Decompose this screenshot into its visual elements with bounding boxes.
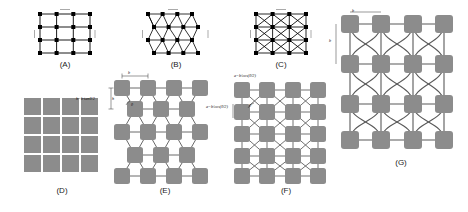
panel-D bbox=[22, 96, 102, 176]
panel-G-edges bbox=[350, 24, 444, 140]
panel-A-nodes bbox=[38, 12, 92, 55]
panel-G-left-span-label: b bbox=[329, 38, 331, 43]
panel-D-graphic bbox=[22, 96, 102, 176]
panel-F-graphic bbox=[230, 78, 342, 184]
panel-G bbox=[338, 12, 464, 152]
panel-E-left-relation-label: h=b·tanθ/2 bbox=[76, 96, 95, 101]
panel-F-nodes bbox=[234, 82, 326, 184]
panel-C-label: (C) bbox=[260, 60, 302, 69]
panel-C-graphic bbox=[250, 8, 312, 60]
panel-D-nodes bbox=[24, 98, 98, 172]
panel-B-label: (B) bbox=[155, 60, 197, 69]
panel-F bbox=[230, 78, 342, 184]
panel-F-label: (F) bbox=[265, 186, 307, 195]
panel-G-graphic bbox=[338, 12, 464, 152]
panel-B bbox=[142, 8, 212, 60]
panel-A-label: (A) bbox=[44, 60, 86, 69]
panel-C bbox=[250, 8, 312, 60]
panel-A bbox=[34, 8, 96, 60]
panel-G-label: (G) bbox=[380, 158, 422, 167]
panel-B-graphic bbox=[142, 8, 212, 60]
panel-E-right-relation-label: a=b/cos(θ/2) bbox=[206, 104, 228, 109]
figure-lattice-topologies: (A) bbox=[0, 0, 468, 212]
panel-F-edges bbox=[242, 90, 318, 176]
panel-A-graphic bbox=[34, 8, 96, 60]
panel-G-nodes bbox=[341, 15, 453, 149]
panel-F-top-relation-label: a=b/cos(θ/2) bbox=[234, 73, 256, 78]
panel-E-label: (E) bbox=[144, 186, 186, 195]
panel-G-top-span-label: b bbox=[352, 8, 354, 13]
panel-E-top-span-label: b bbox=[128, 70, 130, 75]
panel-F-angle-label: θ bbox=[249, 103, 251, 108]
panel-E bbox=[108, 72, 226, 184]
panel-D-label: (D) bbox=[41, 186, 83, 195]
panel-E-graphic bbox=[108, 72, 226, 184]
panel-E-angle-label: θ bbox=[131, 102, 133, 107]
panel-E-left-height-label: h bbox=[112, 96, 114, 101]
